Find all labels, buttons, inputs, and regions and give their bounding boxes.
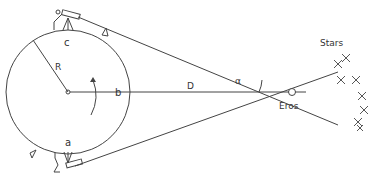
- angle-arc: [259, 80, 262, 92]
- marker-triangle-bottom: [30, 150, 36, 158]
- rotation-arrowhead: [90, 77, 96, 82]
- star-icon: [342, 54, 350, 62]
- sight-line-top: [78, 17, 338, 125]
- star-icon: [357, 125, 363, 131]
- stars-group: [334, 54, 368, 131]
- label-b: b: [115, 87, 121, 98]
- star-icon: [352, 76, 360, 84]
- label-distance: D: [187, 81, 194, 91]
- star-icon: [337, 76, 345, 84]
- star-icon: [334, 60, 342, 68]
- star-icon: [358, 92, 366, 100]
- star-icon: [360, 106, 368, 114]
- telescope-bottom-icon: [54, 152, 83, 172]
- label-a: a: [65, 137, 71, 148]
- label-c: c: [64, 37, 70, 48]
- eros-dot: [289, 89, 296, 96]
- parallax-diagram: c a b R D α Eros Stars: [0, 0, 380, 183]
- label-radius: R: [55, 62, 61, 72]
- telescope-top-icon: [54, 10, 80, 30]
- label-stars: Stars: [320, 38, 343, 48]
- label-angle: α: [235, 76, 241, 86]
- label-eros: Eros: [279, 101, 299, 111]
- radius-line: [33, 40, 68, 92]
- star-icon: [354, 118, 362, 126]
- rotation-arrow: [91, 80, 96, 115]
